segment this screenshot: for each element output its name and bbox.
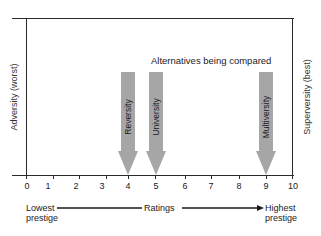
tick-4 xyxy=(128,175,129,179)
tick-label-4: 4 xyxy=(121,181,135,191)
frame-top-line xyxy=(12,18,294,19)
tick-6 xyxy=(185,175,186,179)
tick-label-8: 8 xyxy=(232,181,246,191)
scale-baseline xyxy=(12,175,294,176)
alternative-label: Multiversity xyxy=(261,82,271,152)
tick-label-0: 0 xyxy=(20,181,34,191)
lowest-prestige-label: Lowest prestige xyxy=(26,203,58,223)
alternative-label: Reversity xyxy=(123,82,133,152)
alternative-arrow-multiversity: Multiversity xyxy=(256,72,276,175)
alternative-arrow-university: University xyxy=(146,72,166,175)
rating-scale-diagram: 0 1 2 3 4 5 6 7 8 9 10 Adversity (worst)… xyxy=(0,0,321,236)
tick-8 xyxy=(239,175,240,179)
tick-10 xyxy=(292,175,293,179)
tick-3 xyxy=(106,175,107,179)
tick-label-5: 5 xyxy=(149,181,163,191)
tick-label-1: 1 xyxy=(41,181,55,191)
left-axis-line xyxy=(26,18,27,176)
tick-1 xyxy=(53,175,54,179)
diagram-title: Alternatives being compared xyxy=(151,55,271,66)
lowest-line1: Lowest xyxy=(26,203,58,213)
tick-0 xyxy=(26,175,27,179)
highest-prestige-label: Highest prestige xyxy=(265,203,297,223)
tick-5 xyxy=(155,175,156,179)
tick-9 xyxy=(266,175,267,179)
tick-2 xyxy=(79,175,80,179)
highest-line1: Highest xyxy=(265,203,297,213)
right-border-line xyxy=(292,18,293,176)
alternative-label: University xyxy=(151,82,161,152)
tick-label-10: 10 xyxy=(286,181,300,191)
left-end-label: Adversity (worst) xyxy=(9,52,19,142)
tick-label-3: 3 xyxy=(95,181,109,191)
tick-label-2: 2 xyxy=(69,181,83,191)
ratings-caption: Ratings xyxy=(144,203,175,213)
right-end-label: Superversity (best) xyxy=(302,52,312,142)
highest-line2: prestige xyxy=(265,213,297,223)
tick-label-6: 6 xyxy=(178,181,192,191)
tick-label-9: 9 xyxy=(259,181,273,191)
tick-7 xyxy=(211,175,212,179)
lowest-line2: prestige xyxy=(26,213,58,223)
tick-label-7: 7 xyxy=(204,181,218,191)
alternative-arrow-reversity: Reversity xyxy=(118,72,138,175)
